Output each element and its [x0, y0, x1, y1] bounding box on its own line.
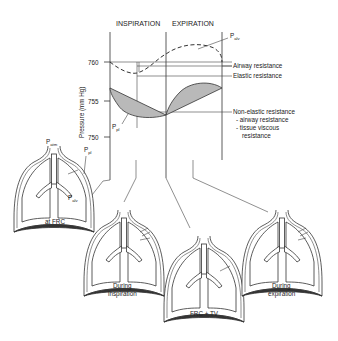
- p-pl-label: Ppl: [112, 123, 120, 132]
- legend-airway-resistance: Airway resistance: [233, 62, 283, 70]
- tick-750: 750: [88, 134, 99, 141]
- p-pl-lung-label: Ppl: [84, 146, 92, 155]
- lung-at-frc: Patm Ppl Palv at FRC: [14, 138, 94, 232]
- caption-inspiration-1: During: [113, 282, 132, 290]
- y-axis-label: Pressure (mm Hg): [78, 87, 86, 138]
- inspiration-resistance-area: [110, 88, 166, 118]
- legend-non-elastic-tissue: - tissue viscous: [236, 124, 279, 131]
- lung-frc-tv: FRC + TV: [164, 236, 244, 322]
- y-axis: 760 755 750 Pressure (mm Hg): [78, 59, 110, 141]
- tick-760: 760: [88, 59, 99, 66]
- caption-expiration-2: expiration: [268, 290, 296, 298]
- legend-non-elastic-airway: - airway resistance: [236, 116, 289, 124]
- caption-expiration-1: During: [272, 282, 291, 290]
- caption-inspiration-2: inspiration: [108, 290, 137, 298]
- legend-elastic-resistance: Elastic resistance: [233, 72, 282, 79]
- respiratory-pressure-diagram: INSPIRATION EXPIRATION 760 755 750 Press…: [0, 0, 338, 341]
- lung-during-expiration: During expiration: [242, 210, 322, 298]
- tick-755: 755: [88, 98, 99, 105]
- lung-during-inspiration: During inspiration: [84, 210, 164, 298]
- p-alv-label: Palv: [230, 32, 240, 41]
- expiration-resistance-area: [166, 83, 222, 115]
- caption-frc: at FRC: [45, 218, 65, 225]
- legend: Airway resistance Elastic resistance Non…: [222, 62, 295, 139]
- legend-non-elastic-tissue-2: resistance: [242, 132, 271, 139]
- legend-non-elastic: Non-elastic resistance: [233, 108, 295, 115]
- header-inspiration: INSPIRATION: [116, 20, 160, 27]
- header-expiration: EXPIRATION: [172, 20, 214, 27]
- caption-frc-tv: FRC + TV: [190, 310, 219, 317]
- p-atm-label: Patm: [46, 138, 58, 147]
